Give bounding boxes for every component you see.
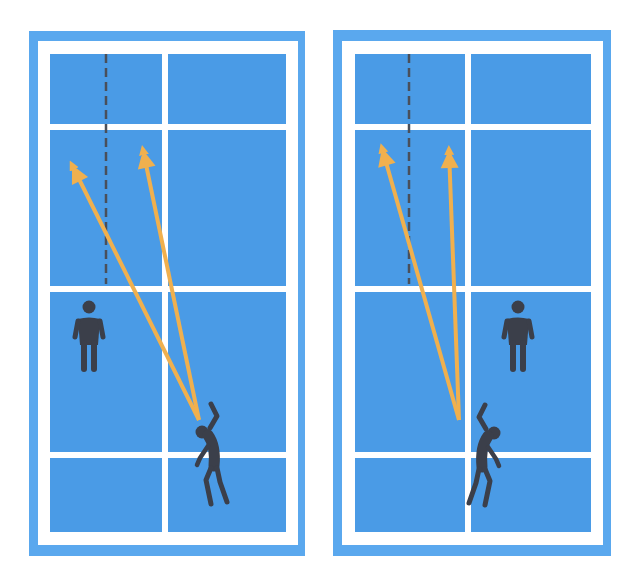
service-line <box>355 452 591 458</box>
service-line <box>50 452 286 458</box>
service-line <box>50 124 286 130</box>
service-line <box>355 286 591 292</box>
court-left <box>29 31 305 556</box>
court-right <box>333 30 611 556</box>
badminton-diagram <box>0 0 641 572</box>
service-line <box>50 286 286 292</box>
service-line <box>355 124 591 130</box>
